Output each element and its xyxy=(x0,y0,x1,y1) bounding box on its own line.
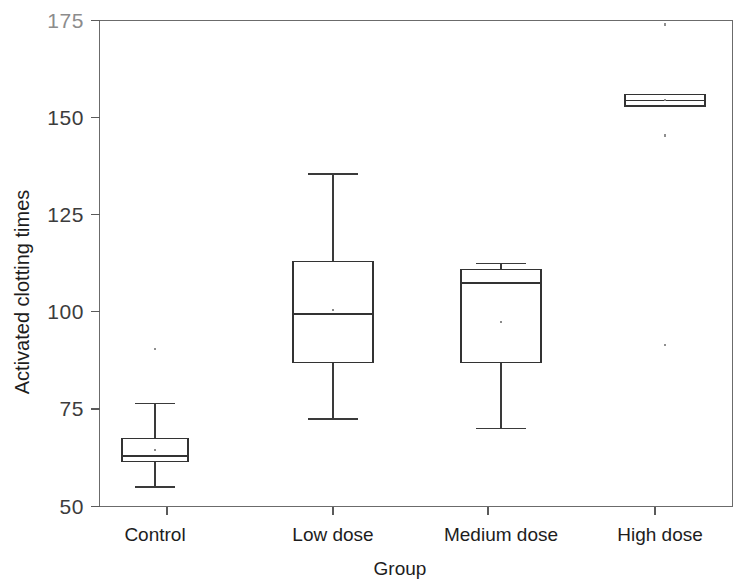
y-tick-label-175: 175 xyxy=(47,9,84,32)
outlier-point xyxy=(154,348,157,351)
y-axis-ticks xyxy=(91,21,100,507)
x-tick-label-low-dose: Low dose xyxy=(292,524,373,545)
boxplot-high-dose xyxy=(625,23,705,347)
x-axis-title: Group xyxy=(374,558,427,579)
boxplot-low-dose xyxy=(293,174,373,419)
outlier-point xyxy=(664,344,667,347)
y-axis-title: Activated clotting times xyxy=(11,190,33,395)
boxplot-medium-dose xyxy=(461,264,541,429)
chart-canvas: 175 150 125 100 75 50 Activated clotting… xyxy=(0,0,753,583)
box-iqr xyxy=(293,262,373,363)
box-series xyxy=(122,23,705,487)
plot-frame xyxy=(100,21,733,507)
x-tick-label-medium-dose: Medium dose xyxy=(444,524,558,545)
mean-marker xyxy=(500,321,503,324)
y-tick-label-150: 150 xyxy=(47,106,84,129)
x-tick-label-high-dose: High dose xyxy=(617,524,703,545)
boxplot-chart: 175 150 125 100 75 50 Activated clotting… xyxy=(0,0,753,583)
y-tick-label-100: 100 xyxy=(47,300,84,323)
y-tick-label-75: 75 xyxy=(59,397,84,420)
x-tick-label-control: Control xyxy=(124,524,185,545)
x-axis-ticks xyxy=(167,507,655,516)
mean-marker xyxy=(664,99,667,102)
mean-marker xyxy=(154,449,157,452)
y-tick-label-50: 50 xyxy=(59,495,84,518)
outlier-point xyxy=(664,134,667,137)
mean-marker xyxy=(332,309,335,312)
y-tick-label-125: 125 xyxy=(47,203,84,226)
outlier-point xyxy=(664,23,667,26)
boxplot-control xyxy=(122,348,188,488)
